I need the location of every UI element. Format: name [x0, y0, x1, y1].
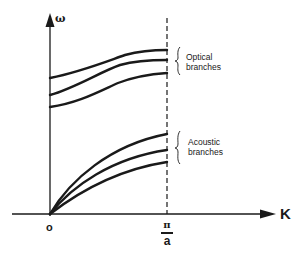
optical-curve-2 [50, 60, 167, 95]
boundary-denominator: a [161, 235, 173, 247]
acoustic-brace-icon [175, 131, 180, 164]
optical-branches-label: Optical branches [186, 52, 221, 72]
optical-label-line2: branches [186, 62, 221, 72]
boundary-numerator: π [161, 219, 173, 231]
x-axis-arrow-icon [260, 210, 276, 219]
braces [175, 47, 180, 164]
dispersion-diagram [0, 0, 295, 259]
y-axis-label: ω [55, 12, 65, 25]
optical-brace-icon [175, 47, 180, 75]
y-axis-arrow-icon [46, 13, 55, 27]
acoustic-label-line2: branches [188, 147, 223, 157]
x-axis-label: K [280, 205, 291, 222]
optical-branches [50, 50, 167, 107]
axes [12, 13, 276, 219]
acoustic-branches-label: Acoustic branches [188, 137, 223, 157]
acoustic-label-line1: Acoustic [188, 137, 223, 147]
origin-label: o [46, 221, 53, 233]
optical-label-line1: Optical [186, 52, 221, 62]
acoustic-branches [50, 134, 167, 214]
acoustic-curve-2 [50, 150, 167, 214]
optical-curve-3 [50, 73, 167, 107]
acoustic-curve-3 [50, 162, 167, 214]
zone-boundary-label: π a [161, 219, 173, 247]
